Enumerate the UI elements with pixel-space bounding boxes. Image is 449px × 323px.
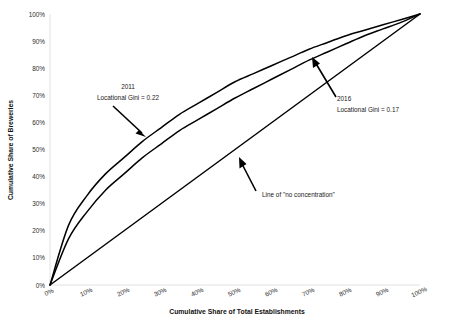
y-tick-label: 10%: [32, 254, 45, 261]
x-tick-label: 80%: [338, 286, 353, 298]
annotation-2016-arrow-head: [312, 57, 320, 68]
annotation-2016-arrow-shaft: [315, 62, 336, 97]
y-axis-title: Cumulative Share of Breweries: [7, 100, 14, 200]
series-line-no-concentration: [50, 14, 420, 285]
y-tick-label: 40%: [32, 173, 45, 180]
x-tick-label: 70%: [301, 286, 316, 298]
y-tick-label: 90%: [32, 38, 45, 45]
x-tick-label: 40%: [190, 286, 205, 298]
y-tick-label: 50%: [32, 146, 45, 153]
x-tick-label: 60%: [264, 286, 279, 298]
annotation-no-concentration-label: Line of "no concentration": [262, 191, 335, 198]
annotation-no-concentration: Line of "no concentration": [239, 157, 335, 198]
x-tick-label: 0%: [43, 286, 55, 296]
annotation-2011: 2011 Locational Gini = 0.22: [97, 83, 159, 137]
y-tick-label: 60%: [32, 119, 45, 126]
x-tick-label: 20%: [116, 286, 131, 298]
annotation-2011-gini: Locational Gini = 0.22: [97, 94, 159, 101]
y-axis-tick-labels: 100% 90% 80% 70% 60% 50% 40% 30% 20% 10%…: [29, 11, 46, 289]
y-tick-label: 0%: [36, 282, 46, 289]
y-tick-label: 70%: [32, 92, 45, 99]
annotation-2011-arrow-shaft: [113, 106, 142, 133]
y-tick-label: 30%: [32, 200, 45, 207]
x-tick-label: 100%: [410, 285, 428, 298]
x-tick-label: 50%: [227, 286, 242, 298]
annotation-2016: 2016 Locational Gini = 0.17: [312, 57, 399, 113]
annotation-2016-year: 2016: [337, 95, 352, 102]
y-tick-label: 100%: [29, 11, 46, 18]
x-tick-label: 30%: [153, 286, 168, 298]
y-tick-label: 20%: [32, 227, 45, 234]
lorenz-curve-figure: 100% 90% 80% 70% 60% 50% 40% 30% 20% 10%…: [0, 0, 449, 323]
annotation-2011-year: 2011: [121, 83, 135, 90]
y-tick-label: 80%: [32, 65, 45, 72]
annotation-no-concentration-arrow-shaft: [241, 162, 256, 191]
x-tick-label: 10%: [79, 286, 94, 298]
x-tick-label: 90%: [375, 286, 390, 298]
x-axis-title: Cumulative Share of Total Establishments: [169, 308, 305, 315]
annotation-2016-gini: Locational Gini = 0.17: [337, 106, 399, 113]
chart-canvas: 100% 90% 80% 70% 60% 50% 40% 30% 20% 10%…: [0, 0, 449, 323]
x-axis-tick-labels: 0% 10% 20% 30% 40% 50% 60% 70% 80% 90% 1…: [43, 285, 428, 298]
